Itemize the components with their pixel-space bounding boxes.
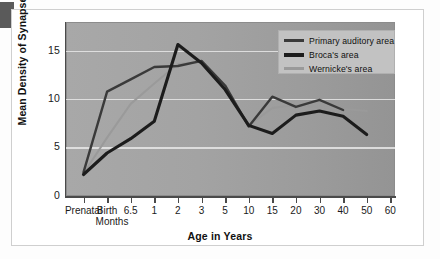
chart-legend: Primary auditory area Broca's area Werni… bbox=[278, 30, 395, 74]
x-axis-tick bbox=[154, 196, 156, 203]
x-tick-label-30: 30 bbox=[314, 205, 325, 216]
x-tick-sublabel-months: Months bbox=[96, 216, 129, 227]
legend-label-wernickes-area: Wernicke's area bbox=[309, 64, 372, 74]
x-axis-tick bbox=[272, 196, 274, 203]
x-tick-label-50: 50 bbox=[361, 205, 372, 216]
x-axis-tick bbox=[202, 196, 204, 203]
x-axis-tick bbox=[225, 196, 227, 203]
x-axis-tick bbox=[84, 196, 86, 203]
x-axis-tick bbox=[178, 196, 180, 203]
y-tick-label-0: 0 bbox=[34, 189, 60, 201]
x-axis-tick bbox=[367, 196, 369, 203]
x-axis-tick bbox=[343, 196, 345, 203]
x-axis-tick bbox=[131, 196, 133, 203]
legend-item-primary-auditory-area: Primary auditory area bbox=[284, 34, 390, 47]
x-tick-label-birth: Birth bbox=[97, 205, 118, 216]
x-tick-label-6-5: 6.5 bbox=[124, 205, 138, 216]
x-tick-label-1: 1 bbox=[152, 205, 158, 216]
y-tick-label-15: 15 bbox=[34, 44, 60, 56]
y-axis-title: Mean Density of Synapses bbox=[16, 0, 28, 138]
plot-area: Primary auditory area Broca's area Werni… bbox=[66, 22, 395, 196]
x-tick-label-15: 15 bbox=[267, 205, 278, 216]
x-axis-line bbox=[65, 196, 396, 198]
x-tick-label-60: 60 bbox=[385, 205, 396, 216]
x-axis-tick bbox=[390, 196, 392, 203]
legend-swatch-brocas-area bbox=[284, 53, 304, 57]
x-tick-label-3: 3 bbox=[199, 205, 205, 216]
x-tick-label-10: 10 bbox=[243, 205, 254, 216]
chart-page: Mean Density of Synapses 15 10 5 0 Prima… bbox=[0, 0, 440, 259]
x-axis-tick bbox=[107, 196, 109, 203]
y-tick-label-10: 10 bbox=[34, 92, 60, 104]
legend-swatch-wernickes-area bbox=[284, 67, 304, 70]
legend-item-brocas-area: Broca's area bbox=[284, 48, 390, 61]
x-tick-label-20: 20 bbox=[290, 205, 301, 216]
x-axis-tick bbox=[249, 196, 251, 203]
x-axis-tick bbox=[296, 196, 298, 203]
legend-item-wernickes-area: Wernicke's area bbox=[284, 62, 390, 75]
x-axis-title: Age in Years bbox=[0, 230, 440, 242]
legend-label-primary-auditory-area: Primary auditory area bbox=[309, 36, 394, 46]
series-line-wernickes-area bbox=[84, 62, 367, 174]
legend-swatch-primary-auditory-area bbox=[284, 39, 304, 42]
x-tick-label-2: 2 bbox=[175, 205, 181, 216]
legend-label-brocas-area: Broca's area bbox=[309, 50, 359, 60]
x-axis-tick bbox=[320, 196, 322, 203]
y-tick-label-5: 5 bbox=[34, 140, 60, 152]
x-tick-label-5: 5 bbox=[222, 205, 228, 216]
x-tick-label-40: 40 bbox=[338, 205, 349, 216]
